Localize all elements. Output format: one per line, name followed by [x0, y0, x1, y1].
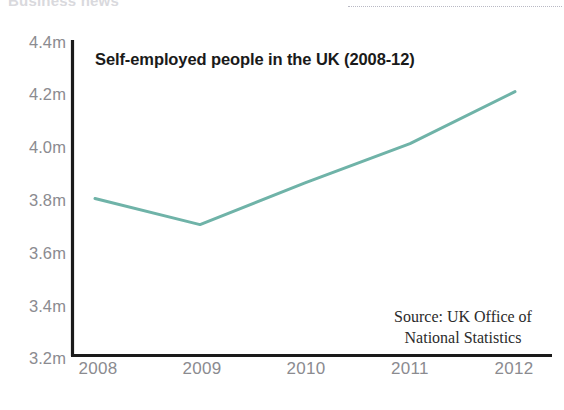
x-tick-label: 2010 [261, 360, 351, 377]
data-series-line [95, 92, 515, 225]
y-tick-label: 4.2m [4, 86, 66, 103]
x-tick-label: 2012 [469, 360, 559, 377]
source-line-2: National Statistics [372, 327, 554, 348]
y-tick-label: 4.4m [4, 34, 66, 51]
chart-title: Self-employed people in the UK (2008-12) [95, 50, 415, 69]
y-tick-label: 3.4m [4, 298, 66, 315]
y-tick-label: 4.0m [4, 139, 66, 156]
source-attribution: Source: UK Office of National Statistics [372, 306, 554, 348]
x-tick-label: 2008 [53, 360, 143, 377]
line-chart: 4.4m 4.2m 4.0m 3.8m 3.6m 3.4m 3.2m 2008 … [0, 0, 564, 410]
x-tick-label: 2009 [157, 360, 247, 377]
y-tick-label: 3.6m [4, 245, 66, 262]
y-tick-label: 3.8m [4, 192, 66, 209]
x-tick-label: 2011 [365, 360, 455, 377]
source-line-1: Source: UK Office of [372, 306, 554, 327]
